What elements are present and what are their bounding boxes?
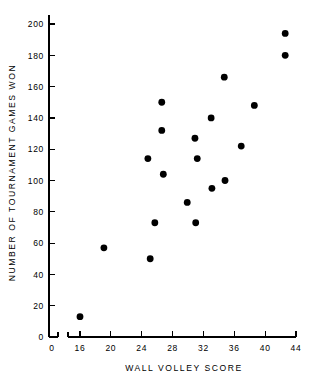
x-tick-label-24: 24 — [136, 343, 147, 353]
axes-group — [49, 15, 296, 337]
tick-labels-group: 0204060801001201401601802001620242832364… — [28, 19, 302, 353]
data-point-5 — [158, 99, 165, 106]
y-tick-label-100: 100 — [28, 176, 44, 186]
data-point-15 — [222, 177, 229, 184]
x-tick-label-36: 36 — [229, 343, 240, 353]
data-point-16 — [238, 143, 245, 150]
data-point-10 — [192, 219, 199, 226]
y-tick-label-0: 0 — [39, 332, 44, 342]
x-tick-label-20: 20 — [105, 343, 116, 353]
axis-titles-group: WALL VOLLEY SCORENUMBER OF TOURNAMENT GA… — [7, 64, 243, 373]
data-point-3 — [147, 255, 154, 262]
y-tick-label-120: 120 — [28, 144, 44, 154]
data-point-13 — [209, 185, 216, 192]
x-tick-label-44: 44 — [291, 343, 302, 353]
x-tick-label-16: 16 — [75, 343, 86, 353]
data-point-6 — [158, 127, 165, 134]
y-tick-label-20: 20 — [33, 301, 44, 311]
scatter-plot-figure: 0204060801001201401601802001620242832364… — [0, 0, 312, 378]
data-point-14 — [221, 74, 228, 81]
data-point-7 — [160, 171, 167, 178]
data-point-8 — [184, 199, 191, 206]
data-point-18 — [282, 30, 289, 37]
data-point-11 — [194, 155, 201, 162]
data-point-9 — [192, 135, 199, 142]
data-point-19 — [282, 52, 289, 59]
data-point-1 — [101, 244, 108, 251]
x-tick-label-32: 32 — [198, 343, 209, 353]
data-point-2 — [144, 155, 151, 162]
x-tick-label-28: 28 — [167, 343, 178, 353]
y-tick-label-200: 200 — [28, 19, 44, 29]
y-tick-label-80: 80 — [33, 207, 44, 217]
x-tick-label-origin: 0 — [49, 343, 54, 353]
data-point-0 — [77, 313, 84, 320]
plot-canvas: 0204060801001201401601802001620242832364… — [0, 0, 312, 378]
y-tick-label-60: 60 — [33, 238, 44, 248]
data-points-group — [77, 30, 289, 320]
data-point-12 — [208, 115, 215, 122]
y-tick-label-180: 180 — [28, 51, 44, 61]
data-point-17 — [251, 102, 258, 109]
y-tick-label-40: 40 — [33, 270, 44, 280]
y-tick-label-160: 160 — [28, 82, 44, 92]
ticks-group — [49, 24, 296, 337]
y-tick-label-140: 140 — [28, 113, 44, 123]
x-tick-label-40: 40 — [260, 343, 271, 353]
data-point-4 — [151, 219, 158, 226]
y-axis-title: NUMBER OF TOURNAMENT GAMES WON — [7, 64, 17, 281]
x-axis-title: WALL VOLLEY SCORE — [125, 363, 243, 373]
